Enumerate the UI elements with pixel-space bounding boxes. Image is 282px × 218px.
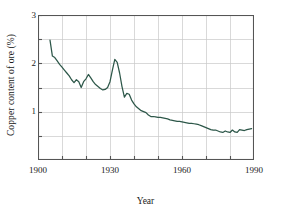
y-axis-tick-labels: 123 <box>20 0 36 218</box>
y-axis-title: Copper content of ore (%) <box>0 0 22 170</box>
chart-figure: Copper content of ore (%) 123 1900193019… <box>0 0 282 218</box>
gridlines <box>38 15 254 160</box>
y-axis-title-text: Copper content of ore (%) <box>6 34 16 136</box>
plot-frame <box>39 16 254 160</box>
x-axis-title: Year <box>38 196 253 206</box>
plot-area <box>38 15 254 160</box>
x-tick-label: 1960 <box>173 166 191 175</box>
x-tick-label: 1930 <box>101 166 119 175</box>
data-line-copper-content <box>50 40 252 132</box>
y-tick-label: 3 <box>24 11 36 20</box>
x-tick-label: 1990 <box>245 166 263 175</box>
y-tick-label: 1 <box>24 107 36 116</box>
y-tick-label: 2 <box>24 59 36 68</box>
